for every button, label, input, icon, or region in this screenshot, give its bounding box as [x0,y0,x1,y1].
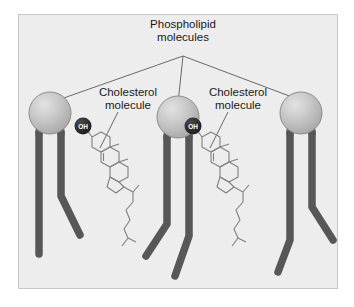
alkyl-tail [122,187,133,246]
phospholipid-head-sphere [29,92,71,134]
steroid-skeleton-left [87,130,139,246]
tail-kinked [312,133,333,240]
steroid-skeleton-right [197,130,249,246]
alkyl-tail-branch-2 [128,238,136,242]
oh-label: OH [188,123,198,130]
cholesterol-label-right: Cholesterol molecule [196,86,280,112]
cholesterol-label-left: Cholesterol molecule [86,86,170,112]
tail-straight [278,133,290,272]
leader-line-cholesterol-right [210,112,228,148]
steroid-ring-d [107,177,124,193]
phospholipid-label: Phospholipid molecules [122,18,244,44]
leader-line-cholesterol-left [100,112,118,148]
methyl-group-2 [229,159,238,162]
alkyl-tail-branch-1 [243,185,249,192]
tail-straight [175,137,189,276]
steroid-ring-d [217,177,234,193]
hydroxyl-badge-right: OH [185,118,202,135]
methyl-group-1 [220,144,229,147]
alkyl-tail [232,187,243,246]
cholesterol-right: OH [185,118,250,247]
diagram-svg: OH OH [0,0,354,307]
methyl-group-1 [110,144,119,147]
phospholipid-tails-left [39,133,80,254]
tail-kinked [61,133,80,235]
hydroxyl-badge-left: OH [75,118,92,135]
cholesterol-left: OH [75,118,140,247]
oh-label: OH [78,123,88,130]
alkyl-tail-branch-1 [133,185,139,192]
phospholipid-head-sphere [280,92,322,134]
alkyl-tail-branch-2 [238,238,246,242]
phospholipid-left [29,92,80,254]
phospholipid-tails-right [278,133,333,272]
figure-root: OH OH Phospholipid [0,0,354,307]
tail-kinked [146,137,167,256]
phospholipid-tails-middle [146,137,189,276]
methyl-group-2 [119,159,128,162]
phospholipid-right [278,92,333,272]
